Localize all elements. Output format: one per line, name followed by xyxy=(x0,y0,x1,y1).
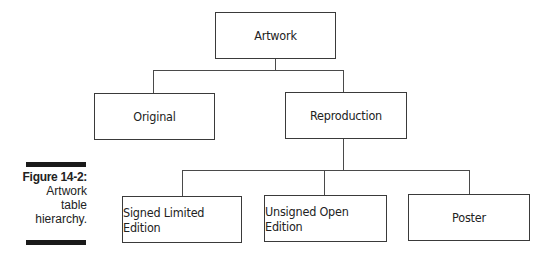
connector-level2-horizontal xyxy=(182,170,470,171)
figure-caption: Figure 14-2: Artwork table hierarchy. xyxy=(23,170,87,226)
node-reproduction: Reproduction xyxy=(285,92,407,139)
node-signed-label: Signed Limited Edition xyxy=(123,205,241,235)
caption-line-1: Artwork xyxy=(23,184,87,198)
connector-to-reproduction xyxy=(343,70,344,92)
connector-to-original xyxy=(153,70,154,93)
node-signed-limited-edition: Signed Limited Edition xyxy=(122,196,242,243)
node-poster: Poster xyxy=(408,194,530,241)
connector-to-unsigned xyxy=(324,170,325,195)
node-artwork-label: Artwork xyxy=(254,28,297,43)
connector-root-down xyxy=(275,58,276,70)
node-unsigned-label: Unsigned Open Edition xyxy=(265,204,386,234)
node-artwork: Artwork xyxy=(215,12,336,59)
caption-line-3: hierarchy. xyxy=(23,212,87,226)
connector-level1-horizontal xyxy=(153,70,344,71)
figure-label: Figure 14-2: xyxy=(23,170,87,184)
connector-reproduction-down xyxy=(343,138,344,170)
node-reproduction-label: Reproduction xyxy=(310,108,382,123)
caption-line-2: table xyxy=(23,198,87,212)
node-poster-label: Poster xyxy=(452,210,486,225)
node-original-label: Original xyxy=(133,109,175,124)
caption-bottom-rule xyxy=(26,240,86,245)
connector-to-signed xyxy=(182,170,183,196)
connector-to-poster xyxy=(469,170,470,194)
node-unsigned-open-edition: Unsigned Open Edition xyxy=(264,195,387,242)
node-original: Original xyxy=(94,93,215,140)
caption-top-rule xyxy=(26,162,86,167)
